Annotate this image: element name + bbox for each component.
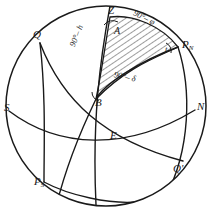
celestial-sphere-figure: Z PN PS Q Q' S N B E A t 90°– h 90°– φ 9…: [0, 0, 212, 212]
sphere-drawing: [0, 0, 212, 212]
label-north-pole-sub: N: [189, 44, 194, 52]
label-south-pole: PS: [34, 176, 44, 189]
label-north-pole: PN: [182, 39, 193, 52]
label-body-b: B: [95, 97, 102, 108]
label-equator-q-prime: Q': [173, 163, 183, 174]
label-angle-azimuth: A: [114, 26, 120, 36]
label-east-e: E: [110, 130, 117, 141]
pole-meridian-arc: [40, 43, 44, 182]
label-south-point: S: [4, 102, 10, 113]
label-angle-hour: t: [165, 45, 168, 54]
label-equator-q: Q: [33, 29, 41, 40]
lower-meridian-arc: [44, 182, 136, 202]
label-zenith: Z: [108, 5, 114, 16]
label-north-point: N: [197, 101, 204, 112]
label-south-pole-sub: S: [41, 181, 45, 189]
